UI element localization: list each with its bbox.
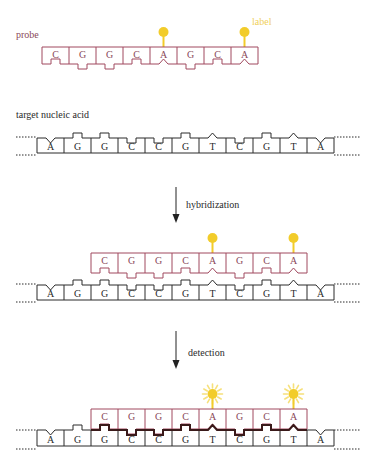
probe-base-G: G <box>128 255 135 266</box>
down-arrow-head <box>173 360 180 369</box>
label-icon <box>159 27 169 47</box>
target-base-G: G <box>74 141 81 152</box>
probe-title: probe <box>16 29 39 40</box>
target-base-A: A <box>47 434 55 445</box>
probe-base-G: G <box>236 255 243 266</box>
target-base-G: G <box>182 288 189 299</box>
target-base-G: G <box>182 434 189 445</box>
target-base-G: G <box>263 434 270 445</box>
probe-strand: CGGCAGCA <box>42 27 258 69</box>
probe-base-G: G <box>187 49 194 60</box>
down-arrow-head <box>173 214 180 223</box>
probe-panel: probe label CGGCAGCA <box>16 16 272 69</box>
probe-base-C: C <box>263 255 270 266</box>
target-base-C: C <box>236 288 243 299</box>
probe-base-C: C <box>52 49 59 60</box>
probe-base-C: C <box>214 49 221 60</box>
probe-base-A: A <box>241 49 249 60</box>
probe-base-G: G <box>155 255 162 266</box>
probe-base-G: G <box>128 411 135 422</box>
probe-base-C: C <box>133 49 140 60</box>
detection-label: detection <box>188 347 225 358</box>
target-base-C: C <box>128 288 135 299</box>
target-base-T: T <box>209 141 215 152</box>
target-base-G: G <box>74 288 81 299</box>
target-base-A: A <box>47 141 55 152</box>
target-base-T: T <box>209 434 215 445</box>
target-base-C: C <box>155 288 162 299</box>
probe-base-A: A <box>209 255 217 266</box>
probe-base-G: G <box>79 49 86 60</box>
target-base-A: A <box>47 288 55 299</box>
probe-base-C: C <box>101 255 108 266</box>
target-base-A: A <box>317 288 325 299</box>
hybridized-panel: CGGCAGCAAGGCCGTCGTA <box>16 233 360 302</box>
hybridization-step: hybridization <box>173 187 240 223</box>
target-base-T: T <box>290 434 296 445</box>
target-base-G: G <box>182 141 189 152</box>
target-base-G: G <box>263 141 270 152</box>
target-strand: AGGCCGTCGTA <box>16 133 360 155</box>
target-base-C: C <box>128 141 135 152</box>
target-base-T: T <box>290 141 296 152</box>
probe-base-A: A <box>160 49 168 60</box>
probe-base-C: C <box>101 411 108 422</box>
glowing-label-icon <box>284 384 304 409</box>
probe-base-C: C <box>182 411 189 422</box>
target-base-G: G <box>101 288 108 299</box>
target-base-A: A <box>317 141 325 152</box>
target-base-G: G <box>74 434 81 445</box>
target-base-G: G <box>101 141 108 152</box>
target-title: target nucleic acid <box>16 109 89 120</box>
hybridization-diagram: probe label CGGCAGCA target nucleic acid… <box>0 0 377 463</box>
probe-base-C: C <box>263 411 270 422</box>
label-title: label <box>252 16 272 27</box>
label-icon <box>240 27 250 47</box>
probe-base-G: G <box>236 411 243 422</box>
probe-base-C: C <box>182 255 189 266</box>
label-icon <box>289 233 299 253</box>
target-base-T: T <box>209 288 215 299</box>
probe-base-A: A <box>290 255 298 266</box>
detection-step: detection <box>173 331 225 369</box>
probe-base-G: G <box>155 411 162 422</box>
target-base-C: C <box>155 141 162 152</box>
target-base-G: G <box>263 288 270 299</box>
probe-base-A: A <box>290 411 298 422</box>
probe-base-A: A <box>209 411 217 422</box>
hybridization-label: hybridization <box>186 199 239 210</box>
detection-panel: CGGCAGCAAGGCCGTCGTA <box>16 384 360 449</box>
target-base-C: C <box>236 141 243 152</box>
target-panel: target nucleic acid AGGCCGTCGTA <box>16 109 360 155</box>
label-icon <box>208 233 218 253</box>
target-base-A: A <box>317 434 325 445</box>
glowing-label-icon <box>203 384 223 409</box>
probe-base-G: G <box>106 49 113 60</box>
target-base-T: T <box>290 288 296 299</box>
target-base-G: G <box>101 434 108 445</box>
